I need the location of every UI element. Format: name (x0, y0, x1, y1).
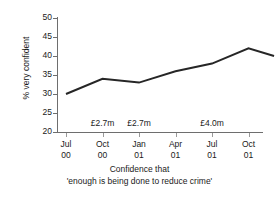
x-tick-year: 01 (229, 150, 269, 161)
y-tick-mark (53, 132, 57, 133)
data-series-line (57, 18, 262, 132)
caption-line-2: 'enough is being done to reduce crime' (0, 176, 279, 188)
x-tick-label: Apr01 (156, 139, 196, 160)
x-tick-mark (139, 133, 140, 137)
x-tick-month: Oct (83, 139, 123, 150)
x-tick-mark (103, 133, 104, 137)
x-tick-mark (212, 133, 213, 137)
y-tick-label: 20 (30, 127, 52, 136)
x-tick-label: Oct00 (83, 139, 123, 160)
x-tick-label: Jul00 (46, 139, 86, 160)
x-tick-month: Oct (229, 139, 269, 150)
y-tick-label: 25 (30, 108, 52, 117)
x-tick-year: 01 (156, 150, 196, 161)
y-tick-label: 40 (30, 51, 52, 60)
spend-annotation: £4.0m (182, 118, 242, 128)
x-tick-year: 00 (83, 150, 123, 161)
x-tick-year: 01 (119, 150, 159, 161)
x-tick-month: Apr (156, 139, 196, 150)
x-tick-mark (249, 133, 250, 137)
x-tick-label: Oct01 (229, 139, 269, 160)
x-tick-label: Jul01 (192, 139, 232, 160)
y-tick-label: 50 (30, 13, 52, 22)
x-axis-spine (57, 132, 263, 133)
x-tick-year: 01 (192, 150, 232, 161)
y-tick-label: 45 (30, 32, 52, 41)
y-tick-label: 30 (30, 89, 52, 98)
chart-caption: Confidence that 'enough is being done to… (0, 164, 279, 187)
y-tick-label: 35 (30, 70, 52, 79)
x-tick-label: Jan01 (119, 139, 159, 160)
line-chart-figure: % very confident 50454035302520 £2.7m£2.… (0, 0, 279, 199)
x-tick-year: 00 (46, 150, 86, 161)
x-tick-mark (176, 133, 177, 137)
x-tick-month: Jan (119, 139, 159, 150)
x-tick-month: Jul (46, 139, 86, 150)
spend-annotation: £2.7m (109, 118, 169, 128)
x-tick-mark (66, 133, 67, 137)
x-tick-month: Jul (192, 139, 232, 150)
caption-line-1: Confidence that (0, 164, 279, 176)
